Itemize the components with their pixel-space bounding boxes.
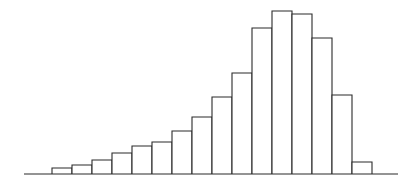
histogram-bar bbox=[292, 14, 312, 174]
histogram-bar bbox=[172, 131, 192, 174]
histogram-bars-group bbox=[52, 11, 372, 174]
histogram-bar bbox=[352, 162, 372, 174]
histogram-canvas bbox=[0, 0, 420, 186]
histogram-bar bbox=[272, 11, 292, 174]
histogram-figure bbox=[0, 0, 420, 186]
histogram-bar bbox=[52, 168, 72, 174]
histogram-bar bbox=[152, 142, 172, 174]
histogram-bar bbox=[72, 165, 92, 174]
histogram-bar bbox=[92, 160, 112, 174]
histogram-bar bbox=[252, 28, 272, 174]
histogram-bar bbox=[112, 153, 132, 174]
histogram-bar bbox=[212, 97, 232, 174]
histogram-bar bbox=[232, 73, 252, 174]
histogram-bar bbox=[192, 117, 212, 174]
histogram-bar bbox=[132, 146, 152, 174]
histogram-bar bbox=[312, 38, 332, 174]
histogram-bar bbox=[332, 95, 352, 174]
